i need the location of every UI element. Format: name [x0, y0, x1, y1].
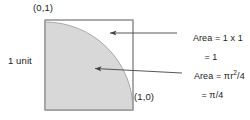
geometry-diagram: (0,1) (1,0) 1 unit Area = 1 x 1 = 1 Area…	[0, 0, 250, 120]
annotation-quarter-circle-area: Area = πr2/4 = π/4	[184, 63, 245, 120]
side-length-label: 1 unit	[8, 56, 32, 66]
annotation-quarter-area-line1: Area = πr2/4	[194, 71, 245, 81]
annotation-quarter-area-line2: = π/4	[184, 91, 245, 100]
annotation-square-area-line1: Area = 1 x 1	[193, 33, 243, 43]
annotation-square-area-line2: = 1	[183, 53, 243, 62]
annotation-quarter-area-prefix: Area = πr	[194, 71, 233, 81]
vertex-label-top-left: (0,1)	[33, 3, 53, 13]
vertex-label-bottom-right: (1,0)	[134, 92, 154, 102]
annotation-quarter-area-suffix: /4	[237, 71, 245, 81]
